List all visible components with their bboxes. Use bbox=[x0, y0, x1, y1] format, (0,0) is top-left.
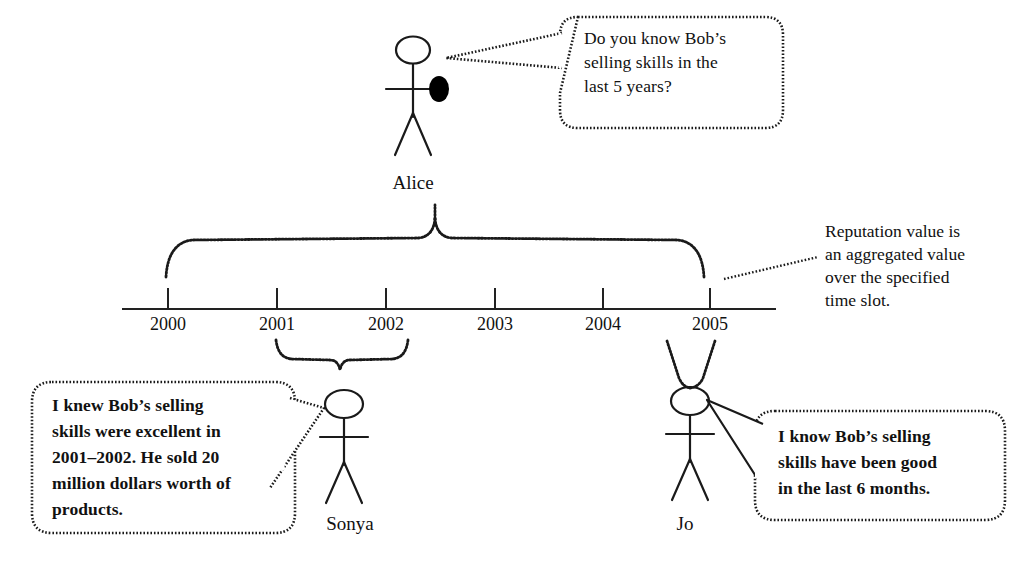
speech-bubble-alice-line-1: Do you know Bob’s bbox=[584, 27, 726, 50]
reputation-note-leader-line bbox=[724, 257, 818, 279]
reputation-note-line-2: an aggregated value bbox=[825, 243, 965, 266]
speech-bubble-sonya-line-1: I knew Bob’s selling bbox=[52, 394, 204, 417]
brace-sonya bbox=[276, 340, 408, 370]
timeline-year-2004: 2004 bbox=[563, 313, 643, 337]
brace-alice bbox=[166, 205, 704, 277]
diagram-canvas: Do you know Bob’s selling skills in the … bbox=[0, 0, 1034, 570]
actor-label-sonya: Sonya bbox=[310, 511, 390, 536]
speech-bubble-sonya-line-4: million dollars worth of bbox=[52, 472, 231, 495]
reputation-note-line-1: Reputation value is bbox=[825, 220, 960, 243]
alice-hand-marker bbox=[429, 76, 449, 102]
timeline-year-2001: 2001 bbox=[237, 313, 317, 337]
timeline-year-2005: 2005 bbox=[670, 313, 750, 337]
timeline-axis bbox=[122, 288, 776, 309]
actor-label-jo: Jo bbox=[655, 511, 715, 536]
speech-bubble-jo-line-2: skills have been good bbox=[778, 451, 937, 474]
speech-bubble-jo-line-1: I know Bob’s selling bbox=[778, 425, 931, 448]
actor-label-alice: Alice bbox=[373, 170, 453, 195]
speech-bubble-alice-line-3: last 5 years? bbox=[584, 75, 672, 98]
timeline-year-2000: 2000 bbox=[128, 313, 208, 337]
actor-sonya-figure bbox=[320, 390, 368, 503]
timeline-year-2003: 2003 bbox=[455, 313, 535, 337]
timeline-year-2002: 2002 bbox=[346, 313, 426, 337]
speech-bubble-sonya-line-3: 2001–2002. He sold 20 bbox=[52, 446, 219, 469]
speech-bubble-sonya-line-5: products. bbox=[52, 498, 123, 521]
brace-jo bbox=[667, 341, 715, 388]
actor-jo-figure bbox=[666, 387, 714, 500]
speech-bubble-jo-line-3: in the last 6 months. bbox=[778, 477, 930, 500]
speech-bubble-sonya-line-2: skills were excellent in bbox=[52, 420, 221, 443]
speech-bubble-alice-line-2: selling skills in the bbox=[584, 51, 718, 74]
reputation-note-line-4: time slot. bbox=[825, 289, 890, 312]
reputation-note-line-3: over the specified bbox=[825, 266, 949, 289]
